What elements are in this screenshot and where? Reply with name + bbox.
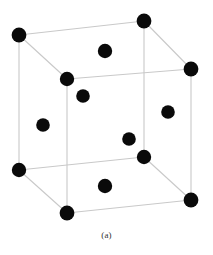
corner-back-top-right xyxy=(137,14,152,29)
face-center-back xyxy=(122,132,136,146)
edge-bottom-right-back xyxy=(144,157,191,200)
face-center-front xyxy=(76,89,90,103)
corner-back-bottom-right xyxy=(137,150,151,164)
corner-front-top-left xyxy=(60,72,74,86)
corner-front-bottom-right xyxy=(184,193,199,208)
edge-bottom-front-right xyxy=(67,200,191,213)
edge-top-front-right xyxy=(67,69,191,79)
face-center-bottom xyxy=(98,179,112,193)
lattice-atoms-group xyxy=(12,14,199,221)
figure-caption: (a) xyxy=(0,229,213,241)
figure-container: (a) xyxy=(0,0,213,255)
fcc-lattice-diagram xyxy=(0,0,213,255)
edge-bottom-back xyxy=(19,157,144,170)
edge-top-front-left xyxy=(19,35,67,79)
corner-back-bottom-left xyxy=(12,163,26,177)
edge-top-back xyxy=(19,21,144,35)
corner-back-top-left xyxy=(12,28,27,43)
face-center-right xyxy=(161,105,175,119)
corner-front-top-right xyxy=(184,62,199,77)
edge-top-right-back xyxy=(144,21,191,69)
face-center-left xyxy=(36,118,50,132)
corner-front-bottom-left xyxy=(60,206,75,221)
face-center-top xyxy=(98,44,112,58)
edge-bottom-front-left xyxy=(19,170,67,213)
